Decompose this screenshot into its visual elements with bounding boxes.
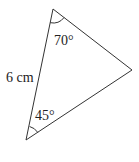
angle-arc-bottom <box>30 127 38 133</box>
angle-arc-top <box>50 18 64 23</box>
angle-label-bottom: 45° <box>35 108 55 123</box>
triangle-diagram: 70° 45° 6 cm <box>0 0 139 162</box>
angle-label-top: 70° <box>54 33 74 48</box>
side-label-left: 6 cm <box>6 70 34 85</box>
